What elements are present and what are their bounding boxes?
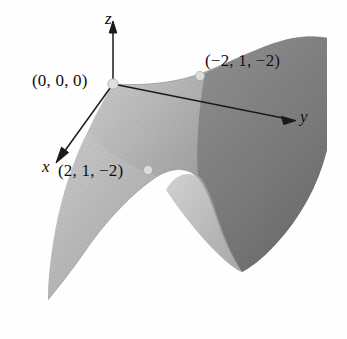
saddle-surface-figure: (0, 0, 0) (−2, 1, −2) (2, 1, −2) z y x xyxy=(0,0,347,339)
marker-origin xyxy=(108,79,118,89)
point-label-point-a: (−2, 1, −2) xyxy=(205,52,280,69)
surface-body xyxy=(0,0,347,339)
marker-point-b xyxy=(143,165,152,174)
marker-point-a xyxy=(195,71,204,80)
point-label-point-b: (2, 1, −2) xyxy=(58,162,123,179)
axis-label-z: z xyxy=(105,10,112,27)
axis-label-x: x xyxy=(42,158,50,175)
point-label-origin: (0, 0, 0) xyxy=(32,72,88,89)
surface-graphic xyxy=(0,0,347,339)
axis-label-y: y xyxy=(300,108,308,125)
